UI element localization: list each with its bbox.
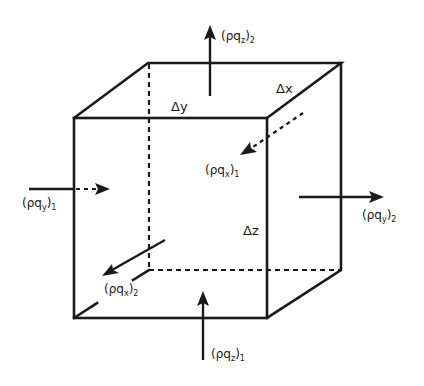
- flux-label-y-in-base: (ρq: [22, 196, 42, 210]
- dimension-label-dz: Δz: [243, 224, 259, 237]
- flux-label-x-out-index: 2: [133, 289, 138, 298]
- front-face: [74, 118, 267, 318]
- flux-label-z-out-base: (ρq: [221, 29, 241, 43]
- flux-label-z-in: (ρqz)1: [211, 348, 245, 363]
- flux-arrow-x-out: [102, 240, 165, 276]
- flux-arrow-z-in: [197, 291, 209, 360]
- flux-label-z-in-base: (ρq: [211, 347, 231, 361]
- flux-label-y-out-base: (ρq: [362, 208, 382, 222]
- top-face-edges: [74, 63, 341, 118]
- flux-label-x-out: (ρqx)2: [104, 283, 138, 298]
- right-face-edges: [267, 63, 341, 318]
- flux-arrow-z-out: [204, 25, 216, 96]
- flux-label-y-in: (ρqy)1: [22, 197, 56, 212]
- flux-label-z-out: (ρqz)2: [221, 30, 255, 45]
- flux-label-x-out-base: (ρq: [104, 282, 124, 296]
- bottom-left-diagonal-b: [133, 270, 149, 280]
- flux-label-z-out-index: 2: [250, 36, 255, 45]
- flux-arrow-y-in: [29, 183, 110, 195]
- flux-label-y-in-index: 1: [51, 203, 56, 212]
- hidden-edges: [149, 64, 341, 270]
- bottom-left-diagonal-a: [74, 303, 97, 318]
- cube-drawing: [0, 0, 424, 386]
- diagram-canvas: Δy Δx Δz (ρqz)2 (ρqz)1 (ρqy)1 (ρqy)2 (ρq…: [0, 0, 424, 386]
- flux-label-y-out-index: 2: [391, 215, 396, 224]
- dimension-label-dx: Δx: [276, 82, 293, 95]
- flux-label-x-in-base: (ρq: [205, 163, 225, 177]
- flux-label-y-out: (ρqy)2: [362, 209, 396, 224]
- flux-label-x-in: (ρqx)1: [205, 164, 239, 179]
- flux-label-z-in-index: 1: [240, 354, 245, 363]
- visible-edges: [74, 63, 341, 318]
- flux-label-x-in-index: 1: [234, 170, 239, 179]
- dimension-label-dy: Δy: [171, 100, 188, 113]
